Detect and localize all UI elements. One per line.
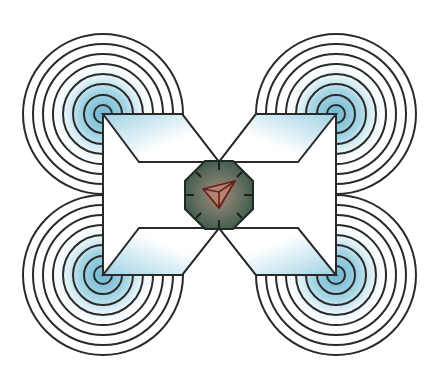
hub: [185, 161, 253, 229]
quadcopter-diagram: [0, 0, 441, 382]
diagram-canvas: [0, 0, 441, 382]
